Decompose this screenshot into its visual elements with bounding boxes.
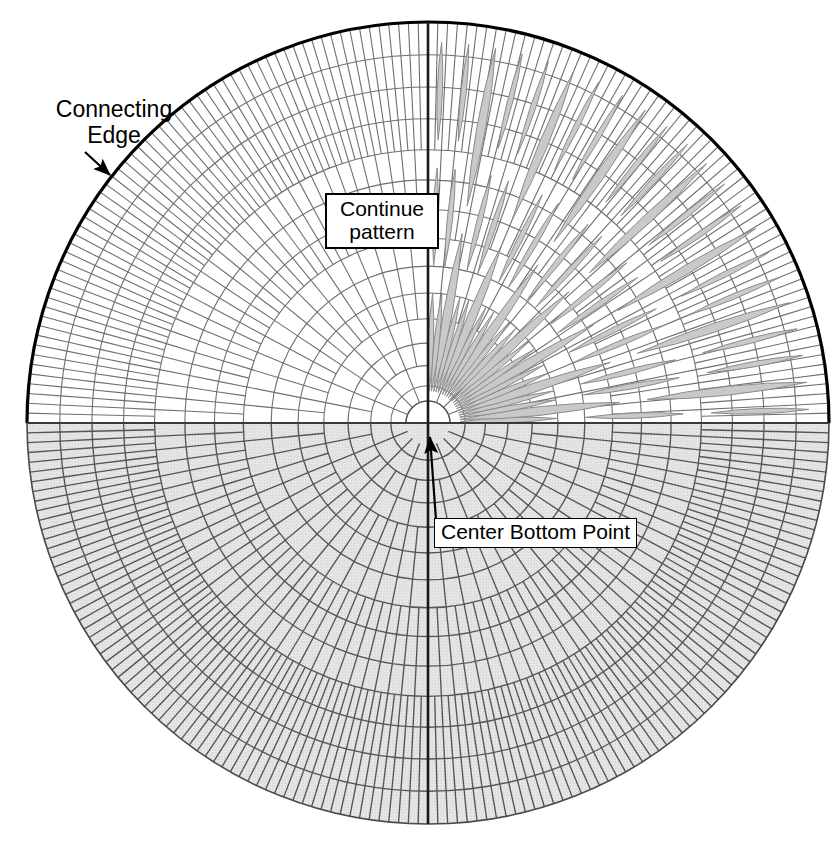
- diagram-stage: Connecting Edge Continue pattern Center …: [0, 0, 833, 853]
- continue-pattern-callout: Continue pattern: [325, 193, 439, 249]
- connecting-edge-label: Connecting Edge: [14, 97, 214, 149]
- center-bottom-point-callout: Center Bottom Point: [434, 518, 637, 548]
